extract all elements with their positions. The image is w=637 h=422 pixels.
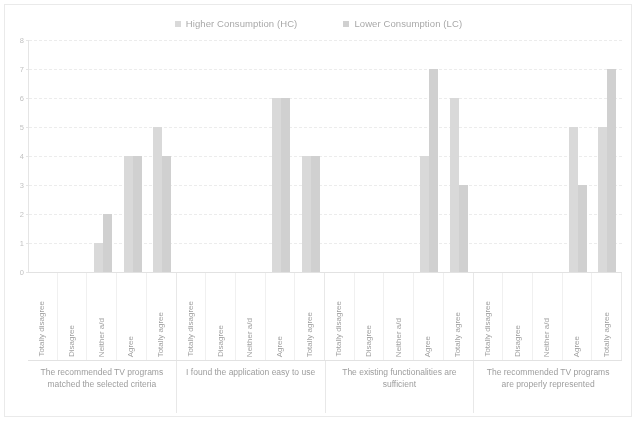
category-cell: Totally disagree xyxy=(325,273,355,360)
bar-lc[interactable] xyxy=(607,69,616,272)
bar-lc[interactable] xyxy=(103,214,112,272)
bar-hc[interactable] xyxy=(420,156,429,272)
category-cell: Neither a/d xyxy=(236,273,266,360)
category-cell: Agree xyxy=(414,273,444,360)
legend-item-hc: Higher Consumption (HC) xyxy=(175,18,298,29)
category-axis-label: Totally disagree xyxy=(187,301,195,357)
category-group: Totally disagreeDisagreeNeither a/dAgree… xyxy=(474,273,623,360)
category-axis-label: Agree xyxy=(424,336,432,357)
plot-area: 012345678 xyxy=(28,40,622,272)
legend-label-lc: Lower Consumption (LC) xyxy=(354,18,462,29)
y-axis-tick-label: 2 xyxy=(20,210,24,219)
bar-series-container xyxy=(29,40,622,272)
category-axis-label: Totally disagree xyxy=(484,301,492,357)
bar-category-slot xyxy=(148,40,178,272)
bar-group xyxy=(177,40,325,272)
bar-category-slot xyxy=(355,40,385,272)
category-cell: Totally agree xyxy=(147,273,176,360)
question-label-cell: The existing functionalities are suffici… xyxy=(326,361,475,413)
bar-group xyxy=(29,40,177,272)
bar-category-slot xyxy=(207,40,237,272)
question-label-cell: I found the application easy to use xyxy=(177,361,326,413)
chart-legend: Higher Consumption (HC) Lower Consumptio… xyxy=(0,18,637,29)
bar-category-slot xyxy=(326,40,356,272)
bar-hc[interactable] xyxy=(569,127,578,272)
y-axis-tick-label: 4 xyxy=(20,152,24,161)
bar-hc[interactable] xyxy=(302,156,311,272)
bar-lc[interactable] xyxy=(459,185,468,272)
bar-hc[interactable] xyxy=(153,127,162,272)
bar-group xyxy=(474,40,622,272)
bar-category-slot xyxy=(296,40,326,272)
category-axis-label: Agree xyxy=(276,336,284,357)
category-group: Totally disagreeDisagreeNeither a/dAgree… xyxy=(28,273,177,360)
bar-category-slot xyxy=(592,40,622,272)
bar-hc[interactable] xyxy=(272,98,281,272)
category-axis-label: Disagree xyxy=(514,325,522,357)
question-group-label: The existing functionalities are suffici… xyxy=(332,366,468,391)
category-axis-label: Totally disagree xyxy=(335,301,343,357)
bar-category-slot xyxy=(474,40,504,272)
y-axis-tick-label: 7 xyxy=(20,65,24,74)
y-axis-tick-label: 0 xyxy=(20,268,24,277)
bar-hc[interactable] xyxy=(124,156,133,272)
bar-category-slot xyxy=(29,40,59,272)
category-cell: Agree xyxy=(563,273,593,360)
category-axis-label: Disagree xyxy=(217,325,225,357)
y-axis-tick-label: 3 xyxy=(20,181,24,190)
category-axis-label: Disagree xyxy=(68,325,76,357)
y-axis-tick-label: 5 xyxy=(20,123,24,132)
category-cell: Agree xyxy=(117,273,147,360)
category-cell: Totally agree xyxy=(444,273,473,360)
category-group: Totally disagreeDisagreeNeither a/dAgree… xyxy=(177,273,326,360)
category-axis-label: Neither a/d xyxy=(98,318,106,357)
category-cell: Totally disagree xyxy=(28,273,58,360)
category-cell: Totally disagree xyxy=(177,273,207,360)
category-axis-label: Totally disagree xyxy=(38,301,46,357)
category-cell: Disagree xyxy=(355,273,385,360)
bar-lc[interactable] xyxy=(578,185,587,272)
legend-item-lc: Lower Consumption (LC) xyxy=(343,18,462,29)
question-group-label: I found the application easy to use xyxy=(186,366,315,378)
category-axis-label: Totally agree xyxy=(306,312,314,357)
category-cell: Disagree xyxy=(206,273,236,360)
bar-lc[interactable] xyxy=(133,156,142,272)
question-label-cell: The recommended TV programs matched the … xyxy=(28,361,177,413)
y-axis-tick-label: 6 xyxy=(20,94,24,103)
category-cell: Disagree xyxy=(58,273,88,360)
legend-swatch-lc xyxy=(343,21,349,27)
category-axis-label: Disagree xyxy=(365,325,373,357)
bar-lc[interactable] xyxy=(311,156,320,272)
bar-category-slot xyxy=(266,40,296,272)
category-axis-label: Neither a/d xyxy=(246,318,254,357)
bar-hc[interactable] xyxy=(598,127,607,272)
category-axis-label: Neither a/d xyxy=(543,318,551,357)
bar-category-slot xyxy=(533,40,563,272)
category-cell: Neither a/d xyxy=(384,273,414,360)
category-axis-label: Totally agree xyxy=(454,312,462,357)
bar-category-slot xyxy=(237,40,267,272)
bar-category-slot xyxy=(503,40,533,272)
category-cell: Totally agree xyxy=(295,273,324,360)
legend-label-hc: Higher Consumption (HC) xyxy=(186,18,298,29)
question-label-cell: The recommended TV programs are properly… xyxy=(474,361,622,413)
question-group-label: The recommended TV programs are properly… xyxy=(480,366,616,391)
bar-group xyxy=(326,40,474,272)
bar-category-slot xyxy=(563,40,593,272)
question-group-band: The recommended TV programs matched the … xyxy=(28,360,622,413)
bar-lc[interactable] xyxy=(429,69,438,272)
question-group-label: The recommended TV programs matched the … xyxy=(34,366,170,391)
category-cell: Agree xyxy=(266,273,296,360)
chart-scan-layer: Higher Consumption (HC) Lower Consumptio… xyxy=(0,0,637,422)
bar-lc[interactable] xyxy=(281,98,290,272)
bar-hc[interactable] xyxy=(450,98,459,272)
bar-category-slot xyxy=(444,40,474,272)
bar-lc[interactable] xyxy=(162,156,171,272)
bar-hc[interactable] xyxy=(94,243,103,272)
bar-category-slot xyxy=(88,40,118,272)
bar-category-slot xyxy=(385,40,415,272)
category-cell: Neither a/d xyxy=(533,273,563,360)
bar-category-slot xyxy=(177,40,207,272)
category-cell: Totally disagree xyxy=(474,273,504,360)
bar-category-slot xyxy=(59,40,89,272)
